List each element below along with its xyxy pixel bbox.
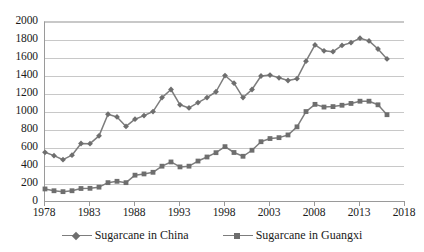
data-point-marker [286,133,291,138]
y-tick-label: 600 [2,141,38,153]
x-tick-label: 2018 [384,207,424,219]
data-point-marker [268,136,273,141]
data-point-marker [259,139,264,144]
square-marker-icon [223,230,253,241]
x-tick-label: 1983 [69,207,109,219]
data-point-marker [267,72,273,78]
data-point-marker [196,159,201,164]
data-point-marker [285,78,291,84]
y-tick-label: 1800 [2,33,38,45]
data-point-marker [133,173,138,178]
data-point-marker [295,124,300,129]
data-point-marker [241,154,246,159]
data-point-marker [214,150,219,155]
series-2 [43,99,390,194]
x-tick-label: 2008 [294,207,334,219]
data-point-marker [358,99,363,104]
y-tick-label: 1600 [2,51,38,63]
data-point-marker [97,185,102,190]
series-canvas [45,22,405,202]
data-point-marker [205,155,210,160]
data-point-marker [51,153,57,159]
data-point-marker [322,105,327,110]
y-tick-label: 1000 [2,105,38,117]
data-point-marker [79,186,84,191]
data-point-marker [331,104,336,109]
data-point-marker [178,165,183,170]
data-point-marker [223,144,228,149]
data-point-marker [294,76,300,82]
x-tick-label: 2013 [339,207,379,219]
y-tick-label: 2000 [2,15,38,27]
data-point-marker [385,112,390,117]
data-point-marker [340,103,345,108]
x-tick-label: 1993 [159,207,199,219]
y-tick-label: 1400 [2,69,38,81]
legend-label: Sugarcane in China [95,228,189,243]
data-point-marker [151,170,156,175]
data-point-marker [232,150,237,155]
data-point-marker [348,40,354,46]
diamond-marker-icon [62,230,92,241]
data-point-marker [376,102,381,107]
data-point-marker [304,109,309,114]
plot-area [44,21,404,201]
y-tick-label: 800 [2,123,38,135]
data-point-marker [88,186,93,191]
data-point-marker [357,35,363,41]
data-point-marker [160,164,165,169]
data-point-marker [70,188,75,193]
data-point-marker [142,172,147,177]
x-tick-label: 1988 [114,207,154,219]
y-tick-label: 200 [2,177,38,189]
x-tick-label: 1978 [24,207,64,219]
line-chart: 0200400600800100012001400160018002000 19… [0,0,424,252]
legend-item[interactable]: Sugarcane in China [62,228,189,243]
y-tick-label: 1200 [2,87,38,99]
series-1 [42,35,390,162]
data-point-marker [141,113,147,119]
data-point-marker [349,101,354,106]
legend-item[interactable]: Sugarcane in Guangxi [223,228,363,243]
data-point-marker [52,188,57,193]
data-point-marker [169,160,174,165]
x-tick-label: 2003 [249,207,289,219]
x-tick-label: 1998 [204,207,244,219]
data-point-marker [115,179,120,184]
data-point-marker [105,111,111,117]
data-point-marker [367,99,372,104]
series-line [45,38,387,160]
y-tick-label: 400 [2,159,38,171]
series-line [45,101,387,191]
data-point-marker [250,148,255,153]
chart-legend: Sugarcane in ChinaSugarcane in Guangxi [0,228,424,243]
data-point-marker [277,135,282,140]
data-point-marker [106,180,111,185]
legend-label: Sugarcane in Guangxi [256,228,363,243]
y-tick-label: 0 [2,195,38,207]
data-point-marker [124,180,129,185]
data-point-marker [276,75,282,81]
data-point-marker [303,58,309,64]
data-point-marker [60,157,66,163]
data-point-marker [43,187,48,192]
data-point-marker [187,164,192,169]
data-point-marker [61,189,66,194]
data-point-marker [313,102,318,107]
